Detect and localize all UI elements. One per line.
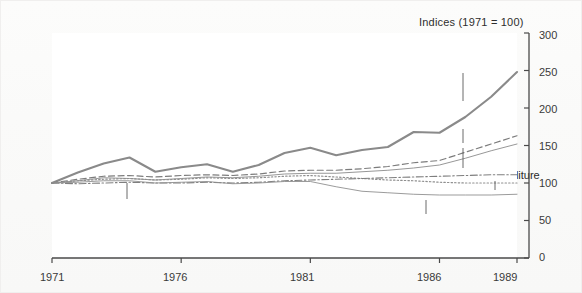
y-axis-ticks xyxy=(524,33,529,258)
plot-area-background xyxy=(52,33,517,258)
chart-page: Indices (1971 = 100) 300 250 200 150 100… xyxy=(0,0,582,293)
chart-canvas xyxy=(0,0,582,293)
x-axis-ticks xyxy=(52,258,517,263)
